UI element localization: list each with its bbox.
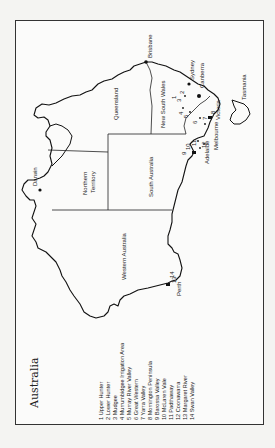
legend-item: 11 Padthaway xyxy=(168,385,174,420)
legend-item: 14 Swan Valley xyxy=(189,382,195,420)
legend-item: 12 Coonawarra xyxy=(175,381,181,420)
svg-text:Darwin: Darwin xyxy=(32,167,38,186)
state-label-south-australia: South Australia xyxy=(148,156,154,197)
state-label-northern-territory-1: Northern xyxy=(82,172,88,195)
svg-text:Canberra: Canberra xyxy=(199,62,205,88)
svg-text:14: 14 xyxy=(169,271,175,278)
tasmania-outline xyxy=(230,100,250,124)
state-label-tasmania: Tasmania xyxy=(241,74,247,100)
city-brisbane: Brisbane xyxy=(144,34,153,64)
state-label-new-south-wales: New South Wales xyxy=(160,81,166,128)
wine-region-legend: 1 Upper Hunter 2 Lower Hunter 3 Mudgee 4… xyxy=(98,342,195,420)
gulf-of-carpentaria-coast xyxy=(50,124,72,166)
svg-text:6: 6 xyxy=(192,120,198,124)
svg-text:Sydney: Sydney xyxy=(189,60,195,80)
svg-text:Melbourne: Melbourne xyxy=(213,121,219,150)
legend-item: 3 Mudgee xyxy=(112,395,118,420)
state-label-western-australia: Western Australia xyxy=(121,232,127,280)
svg-text:7: 7 xyxy=(202,116,208,120)
svg-text:2: 2 xyxy=(179,90,185,94)
svg-text:11: 11 xyxy=(191,139,197,146)
state-label-victoria: Victoria xyxy=(215,99,221,120)
legend-item: 6 Great Western xyxy=(133,379,139,420)
svg-text:4: 4 xyxy=(178,111,184,115)
state-label-queensland: Queensland xyxy=(113,88,119,120)
australia-map: Queensland New South Wales Victoria Tasm… xyxy=(0,0,275,448)
state-label-northern-territory-2: Territory xyxy=(90,171,96,193)
svg-text:1: 1 xyxy=(171,95,177,99)
legend-item: 13 Margaret River xyxy=(182,375,188,420)
legend-item: 4 Murrumbidgee Irrigation Area xyxy=(119,342,125,420)
legend-item: 1 Upper Hunter xyxy=(98,382,104,420)
svg-text:9: 9 xyxy=(181,151,187,155)
city-canberra: Canberra xyxy=(197,62,205,98)
legend-item: 2 Lower Hunter xyxy=(105,382,111,420)
legend-item: 9 Barossa Valley xyxy=(154,378,160,420)
legend-item: 8 Mornington Peninsula xyxy=(147,360,153,420)
svg-text:Brisbane: Brisbane xyxy=(147,34,153,58)
city-darwin: Darwin xyxy=(32,167,42,191)
legend-item: 5 Murray River Valley xyxy=(126,367,132,420)
map-title: Australia xyxy=(28,357,41,409)
legend-item: 7 Yarra Valley xyxy=(140,386,146,420)
legend-item: 10 McLaren Vale xyxy=(161,378,167,420)
